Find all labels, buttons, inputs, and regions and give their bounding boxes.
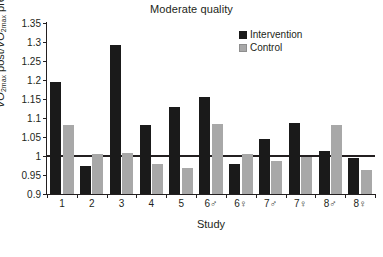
bar-intervention[interactable] — [348, 158, 359, 194]
x-tick — [345, 194, 346, 198]
x-tick — [315, 194, 316, 198]
x-axis-line — [46, 194, 376, 195]
y-tick-label: 1.05 — [22, 132, 41, 143]
y-tick-label: 1.15 — [22, 94, 41, 105]
x-tick-label: 4 — [149, 198, 155, 209]
x-tick-label: 7♂ — [264, 198, 277, 209]
x-tick — [375, 194, 376, 198]
legend-label-control: Control — [250, 41, 282, 54]
x-tick — [47, 194, 48, 198]
x-tick-label: 1 — [59, 198, 65, 209]
chart-legend: Intervention Control — [239, 28, 302, 54]
bar-intervention[interactable] — [110, 45, 121, 194]
x-tick — [166, 194, 167, 198]
x-tick — [256, 194, 257, 198]
x-tick-label: 6♂ — [204, 198, 217, 209]
x-tick-label: 6♀ — [234, 198, 247, 209]
x-tick — [107, 194, 108, 198]
bar-intervention[interactable] — [140, 125, 151, 194]
y-tick — [43, 42, 47, 43]
x-tick — [226, 194, 227, 198]
x-tick-label: 2 — [89, 198, 95, 209]
bar-control[interactable] — [152, 164, 163, 194]
x-tick-label: 5 — [178, 198, 184, 209]
y-tick-label: 1.35 — [22, 18, 41, 29]
bar-intervention[interactable] — [80, 166, 91, 194]
bar-intervention[interactable] — [289, 123, 300, 194]
y-tick-label: 1.3 — [27, 37, 41, 48]
plot-area: 0.90.9511.051.11.151.21.251.31.35 — [47, 23, 375, 194]
x-tick-label: 3 — [119, 198, 125, 209]
y-tick-label: 0.95 — [22, 170, 41, 181]
bar-control[interactable] — [331, 125, 342, 194]
x-tick-label: 8♂ — [324, 198, 337, 209]
bar-control[interactable] — [122, 153, 133, 194]
bar-control[interactable] — [182, 168, 193, 194]
y-tick-label: 1 — [35, 151, 41, 162]
x-tick-label: 7♀ — [294, 198, 307, 209]
y-tick — [43, 137, 47, 138]
y-tick-label: 1.25 — [22, 56, 41, 67]
y-tick-label: 1.2 — [27, 75, 41, 86]
bar-intervention[interactable] — [319, 151, 330, 194]
x-tick — [196, 194, 197, 198]
legend-swatch-intervention — [239, 31, 247, 39]
chart-title: Moderate quality — [0, 3, 383, 15]
bar-intervention[interactable] — [199, 97, 210, 194]
x-tick — [77, 194, 78, 198]
legend-item-intervention: Intervention — [239, 28, 302, 41]
bar-intervention[interactable] — [169, 107, 180, 194]
x-tick — [286, 194, 287, 198]
y-tick — [43, 118, 47, 119]
y-tick — [43, 23, 47, 24]
bar-control[interactable] — [212, 124, 223, 194]
legend-swatch-control — [239, 44, 247, 52]
y-tick-label: 0.9 — [27, 189, 41, 200]
y-tick — [43, 61, 47, 62]
bar-intervention[interactable] — [229, 164, 240, 194]
bar-control[interactable] — [63, 125, 74, 194]
bar-control[interactable] — [242, 154, 253, 194]
y-axis-title: VO2max post/VO2max pre — [0, 0, 6, 108]
x-tick-label: 8♀ — [354, 198, 367, 209]
bar-intervention[interactable] — [50, 82, 61, 194]
chart-container: Moderate quality VO2max post/VO2max pre … — [0, 0, 383, 257]
y-tick-label: 1.1 — [27, 113, 41, 124]
y-tick — [43, 175, 47, 176]
x-axis-title: Study — [47, 218, 375, 230]
x-tick — [136, 194, 137, 198]
bar-control[interactable] — [92, 154, 103, 194]
legend-item-control: Control — [239, 41, 302, 54]
bar-control[interactable] — [301, 157, 312, 194]
y-tick — [43, 80, 47, 81]
bar-control[interactable] — [271, 161, 282, 194]
y-tick — [43, 99, 47, 100]
bar-control[interactable] — [361, 170, 372, 194]
legend-label-intervention: Intervention — [250, 28, 302, 41]
bar-intervention[interactable] — [259, 139, 270, 194]
